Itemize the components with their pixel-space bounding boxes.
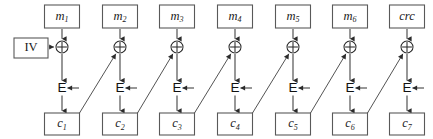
ciphertext-subscript-5: 5 [294,123,298,132]
feedback-line-6-to-7 [368,54,403,113]
cipher-columns-group: m1Ec1m2Ec2m3Ec3m4Ec4m5Ec5m6Ec6crcEc7 [45,5,425,135]
plaintext-subscript-5: 5 [296,15,300,24]
cipher-block-3: E [172,80,181,95]
cipher-column-6: m6Ec6 [333,5,368,135]
ciphertext-subscript-1: 1 [63,123,67,132]
cipher-column-1: m1Ec1 [45,5,80,135]
ciphertext-subscript-6: 6 [351,123,355,132]
feedback-line-5-to-6 [311,54,346,113]
feedback-line-2-to-3 [138,54,173,113]
plaintext-subscript-4: 4 [238,15,242,24]
plaintext-subscript-3: 3 [179,15,184,24]
cipher-column-3: m3Ec3 [160,5,195,135]
feedback-line-1-to-2 [80,54,116,113]
cipher-block-7: E [402,80,411,95]
cbc-mode-diagram: IV m1Ec1m2Ec2m3Ec3m4Ec4m5Ec5m6Ec6crcEc7 [0,0,433,139]
iv-label: IV [24,40,37,54]
plaintext-subscript-2: 2 [123,15,127,24]
cipher-block-1: E [57,80,66,95]
ciphertext-subscript-2: 2 [121,123,125,132]
cipher-column-4: m4Ec4 [218,5,253,135]
plaintext-subscript-6: 6 [353,15,357,24]
cipher-column-7: crcEc7 [390,5,425,135]
iv-block-group: IV [14,38,54,58]
cipher-column-2: m2Ec2 [103,5,138,135]
ciphertext-subscript-3: 3 [177,123,182,132]
plaintext-label-7: crc [399,9,415,23]
cipher-column-5: m5Ec5 [276,5,311,135]
cipher-block-4: E [230,80,239,95]
feedback-line-4-to-5 [253,54,289,113]
cipher-block-2: E [115,80,124,95]
plaintext-subscript-1: 1 [65,15,69,24]
feedback-line-3-to-4 [195,54,231,113]
diagram-canvas: IV m1Ec1m2Ec2m3Ec3m4Ec4m5Ec5m6Ec6crcEc7 [0,0,433,139]
cipher-block-6: E [345,80,354,95]
ciphertext-subscript-4: 4 [236,123,240,132]
cipher-block-5: E [288,80,297,95]
